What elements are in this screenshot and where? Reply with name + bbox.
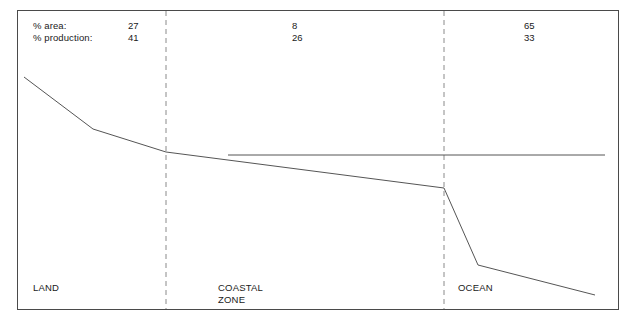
zone-label-coastal-zone-line1: COASTAL: [218, 282, 263, 294]
zone-label-land: LAND: [33, 282, 59, 294]
zone-label-coastal-zone: COASTAL ZONE: [218, 282, 263, 305]
header-row-label-area: % area:: [33, 20, 66, 31]
zone-label-coastal-zone-line2: ZONE: [218, 294, 263, 306]
header-value-production-land: 41: [128, 32, 139, 43]
header-value-area-ocean: 65: [524, 20, 535, 31]
header-value-area-land: 27: [128, 20, 139, 31]
figure-page: % area: % production: 27 8 65 41 26 33 L…: [0, 0, 635, 323]
header-value-production-coastal-zone: 26: [292, 32, 303, 43]
zone-label-ocean-line1: OCEAN: [458, 282, 493, 294]
header-row-label-production: % production:: [33, 32, 92, 43]
zone-label-land-line1: LAND: [33, 282, 59, 294]
header-value-area-coastal-zone: 8: [292, 20, 297, 31]
zone-label-ocean: OCEAN: [458, 282, 493, 294]
figure-frame: [17, 10, 619, 310]
header-value-production-ocean: 33: [524, 32, 535, 43]
